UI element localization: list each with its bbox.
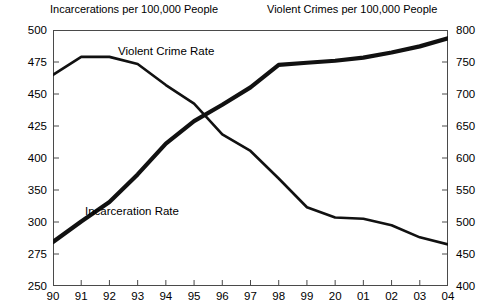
x-tick-label: 91 [68,290,94,302]
left-tick-label: 475 [28,56,47,68]
right-axis-title: Violent Crimes per 100,000 People [267,3,437,15]
x-tick-label: 20 [322,290,348,302]
left-tick-label: 450 [28,88,47,100]
right-tick-label: 700 [456,88,475,100]
x-tick-label: 99 [294,290,320,302]
left-axis-title: Incarcerations per 100,000 People [50,3,218,15]
x-tick-label: 90 [40,290,66,302]
right-tick-label: 750 [456,56,475,68]
left-tick-label: 350 [28,184,47,196]
right-tick-label: 550 [456,184,475,196]
left-tick-label: 300 [28,216,47,228]
x-tick-label: 04 [435,290,461,302]
x-tick-label: 92 [96,290,122,302]
right-tick-label: 650 [456,120,475,132]
x-tick-label: 93 [125,290,151,302]
x-tick-label: 95 [181,290,207,302]
x-tick-label: 02 [379,290,405,302]
series-label-incarceration-rate: Incarceration Rate [85,205,179,218]
left-tick-label: 275 [28,248,47,260]
plot-lines [53,30,448,286]
right-tick-label: 450 [456,248,475,260]
series-label-violent-crime-rate: Violent Crime Rate [118,45,214,58]
right-tick-label: 800 [456,24,475,36]
chart-container: Incarcerations per 100,000 People Violen… [0,0,494,305]
x-tick-label: 94 [153,290,179,302]
left-tick-label: 500 [28,24,47,36]
x-tick-label: 97 [238,290,264,302]
right-tick-label: 500 [456,216,475,228]
x-tick-label: 01 [350,290,376,302]
x-tick-label: 98 [266,290,292,302]
x-tick-label: 96 [209,290,235,302]
right-tick-label: 600 [456,152,475,164]
left-tick-label: 400 [28,152,47,164]
left-tick-label: 425 [28,120,47,132]
x-tick-label: 03 [407,290,433,302]
